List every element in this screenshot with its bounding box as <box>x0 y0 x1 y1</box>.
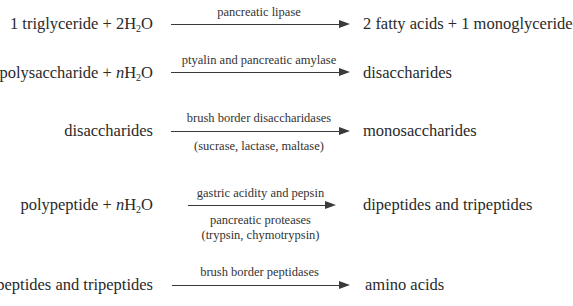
arrowhead-icon <box>339 20 350 28</box>
reaction-arrow <box>172 285 347 286</box>
reactant-triglyceride: 1 triglyceride + 2H2O <box>10 14 153 34</box>
reactant-tail: O <box>141 63 153 82</box>
reaction-arrow <box>188 205 333 206</box>
reaction-arrow <box>171 131 347 132</box>
arrowhead-icon <box>325 201 336 209</box>
product-amino-acids: amino acids <box>365 275 444 295</box>
enzyme-brush-border-peptidases: brush border peptidases <box>172 265 347 280</box>
reactant-text: polypeptide + <box>20 195 115 214</box>
reaction-arrow <box>171 24 347 25</box>
reactant-tail: O <box>141 195 153 214</box>
reactant-tail: O <box>141 14 153 33</box>
enzyme-list-proteases: (trypsin, chymotrypsin) <box>188 228 333 243</box>
product-fatty-acids: 2 fatty acids + 1 monoglyceride <box>363 14 573 34</box>
enzyme-brush-border-disaccharidases: brush border disaccharidases <box>171 111 347 126</box>
enzyme-gastric-pepsin: gastric acidity and pepsin <box>188 186 333 201</box>
reactant-italic: n <box>116 195 124 214</box>
enzyme-pancreatic-proteases: pancreatic proteases <box>188 213 333 228</box>
reaction-arrow <box>171 72 347 73</box>
reactant-mid: H <box>124 195 136 214</box>
reactant-disaccharides: disaccharides <box>64 121 153 141</box>
reactant-text: 1 triglyceride + 2H <box>10 14 136 33</box>
enzyme-list-disaccharidases: (sucrase, lactase, maltase) <box>171 139 347 154</box>
reactant-polysaccharide: polysaccharide + nH2O <box>0 63 153 83</box>
reactant-italic: n <box>116 63 124 82</box>
reactant-mid: H <box>124 63 136 82</box>
enzyme-pancreatic-lipase: pancreatic lipase <box>171 5 347 20</box>
product-dipeptides-tripeptides: dipeptides and tripeptides <box>363 195 533 215</box>
product-monosaccharides: monosaccharides <box>363 121 477 141</box>
arrowhead-icon <box>339 68 350 76</box>
reactant-text: polysaccharide + <box>0 63 116 82</box>
arrowhead-icon <box>339 281 350 289</box>
reactant-dipeptides-tripeptides: dipeptides and tripeptides <box>0 275 153 295</box>
product-disaccharides: disaccharides <box>363 63 452 83</box>
arrowhead-icon <box>339 127 350 135</box>
enzyme-ptyalin-amylase: ptyalin and pancreatic amylase <box>171 53 347 68</box>
reactant-polypeptide: polypeptide + nH2O <box>20 195 153 215</box>
